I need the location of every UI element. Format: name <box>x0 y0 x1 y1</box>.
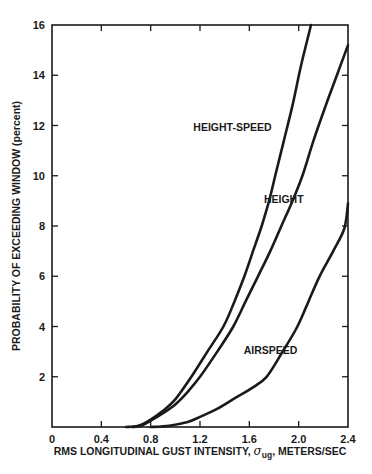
curve-height-speed <box>126 25 311 427</box>
curve-labels: HEIGHT-SPEEDHEIGHTAIRSPEED <box>193 121 304 357</box>
chart: 00.40.81.21.62.02.4246810121416 HEIGHT-S… <box>0 0 372 474</box>
curve-height <box>132 45 348 427</box>
x-tick-label: 0.8 <box>143 433 158 445</box>
axis-ticks <box>52 25 348 427</box>
x-tick-label: 0 <box>49 433 55 445</box>
y-tick-label: 12 <box>33 120 45 132</box>
x-tick-label: 1.2 <box>192 433 207 445</box>
y-tick-label: 2 <box>39 371 45 383</box>
curve-label-airspeed: AIRSPEED <box>244 344 298 356</box>
y-tick-label: 10 <box>33 170 45 182</box>
curve-label-height: HEIGHT <box>264 193 304 205</box>
x-tick-label: 2.4 <box>340 433 356 445</box>
y-tick-label: 16 <box>33 19 45 31</box>
y-tick-label: 4 <box>39 321 46 333</box>
x-axis-title-suffix: , METERS/SEC <box>272 445 347 457</box>
y-tick-label: 8 <box>39 220 45 232</box>
x-tick-label: 2.0 <box>291 433 306 445</box>
x-axis-title-prefix: RMS LONGITUDINAL GUST INTENSITY, <box>54 445 254 457</box>
y-tick-label: 6 <box>39 270 45 282</box>
y-axis-title: PROBABILITY OF EXCEEDING WINDOW (percent… <box>10 101 22 351</box>
plot-border <box>52 25 348 427</box>
x-tick-label: 0.4 <box>94 433 110 445</box>
y-tick-label: 14 <box>33 69 46 81</box>
plot-frame <box>52 25 348 427</box>
curve-label-height-speed: HEIGHT-SPEED <box>193 121 272 133</box>
curves <box>126 25 348 427</box>
sigma-subscript: ug <box>262 450 272 460</box>
x-axis-title: RMS LONGITUDINAL GUST INTENSITY, σug, ME… <box>54 444 347 460</box>
tick-labels: 00.40.81.21.62.02.4246810121416 <box>33 19 357 445</box>
